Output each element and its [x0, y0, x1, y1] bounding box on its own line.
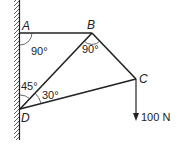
- label-point-c: C: [139, 72, 148, 86]
- arc-a-icon: [20, 33, 32, 45]
- label-angle-a: 90°: [31, 45, 48, 57]
- arc-d-wall-icon: [20, 95, 30, 99]
- label-angle-b: 90°: [82, 43, 99, 55]
- member-bc: [92, 33, 136, 79]
- label-point-d: D: [21, 111, 30, 125]
- truss-diagram: A B C D 90° 90° 45° 30° 100 N: [0, 0, 179, 147]
- label-load: 100 N: [141, 111, 170, 123]
- label-angle-d-members: 30°: [42, 89, 59, 101]
- wall-support: [14, 0, 20, 140]
- label-point-a: A: [21, 19, 30, 33]
- label-angle-d-wall: 45°: [21, 80, 38, 92]
- label-point-b: B: [87, 18, 95, 32]
- arc-d-members-icon: [35, 93, 41, 103]
- arrow-down-icon: [133, 113, 139, 121]
